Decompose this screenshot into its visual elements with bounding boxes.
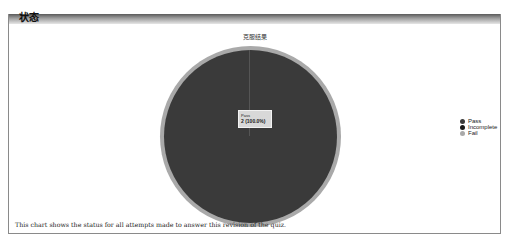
- pie-chart[interactable]: [160, 46, 341, 227]
- legend-item-fail[interactable]: Fail: [460, 130, 497, 136]
- panel-title: 状态: [19, 11, 39, 25]
- legend-dot-icon: [460, 125, 465, 130]
- chart-tooltip: Pass 2 (100.0%): [238, 110, 272, 128]
- legend-dot-icon: [460, 119, 465, 124]
- chart-legend: Pass Incomplete Fail: [460, 118, 497, 136]
- pie-slice-pass[interactable]: [164, 50, 337, 223]
- chart-caption: This chart shows the status for all atte…: [15, 221, 286, 228]
- legend-label: Fail: [468, 130, 478, 136]
- tooltip-value: 2 (100.0%): [241, 118, 269, 125]
- chart-title: 克服结果: [9, 32, 500, 41]
- panel-header: 状态: [9, 14, 500, 24]
- status-panel: 状态 克服结果 Pass 2 (100.0%) Pass Incomplete …: [8, 14, 501, 234]
- legend-dot-icon: [460, 131, 465, 136]
